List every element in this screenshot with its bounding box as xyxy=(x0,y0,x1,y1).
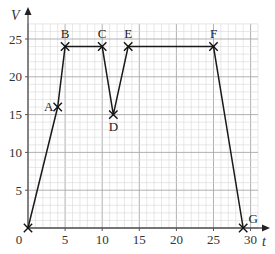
x-tick-label: 10 xyxy=(96,232,109,247)
y-axis-label: V xyxy=(11,8,21,23)
x-axis-arrow-icon xyxy=(262,225,270,232)
y-tick-label: 20 xyxy=(9,69,22,84)
point-label-d: D xyxy=(109,119,118,134)
point-label-f: F xyxy=(210,26,217,41)
velocity-time-graph: 051015202530510152025 ABCDEFG t V xyxy=(0,0,275,254)
point-label-g: G xyxy=(248,211,257,226)
x-tick-label: 25 xyxy=(207,232,220,247)
y-tick-label: 25 xyxy=(9,32,22,47)
point-label-c: C xyxy=(98,26,107,41)
grid xyxy=(28,24,258,228)
x-axis-label: t xyxy=(262,234,267,249)
y-axis-arrow-icon xyxy=(25,7,32,15)
x-tick-label: 0 xyxy=(16,232,23,247)
point-label-e: E xyxy=(124,26,132,41)
x-tick-label: 5 xyxy=(62,232,69,247)
y-tick-label: 15 xyxy=(9,107,22,122)
x-tick-label: 20 xyxy=(170,232,183,247)
tick-labels: 051015202530510152025 xyxy=(9,32,257,248)
y-tick-label: 5 xyxy=(16,183,23,198)
point-label-a: A xyxy=(44,99,54,114)
y-tick-label: 10 xyxy=(9,145,22,160)
x-tick-label: 15 xyxy=(133,232,146,247)
x-tick-label: 30 xyxy=(244,232,257,247)
point-markers: ABCDEFG xyxy=(24,26,258,233)
point-label-b: B xyxy=(61,26,70,41)
